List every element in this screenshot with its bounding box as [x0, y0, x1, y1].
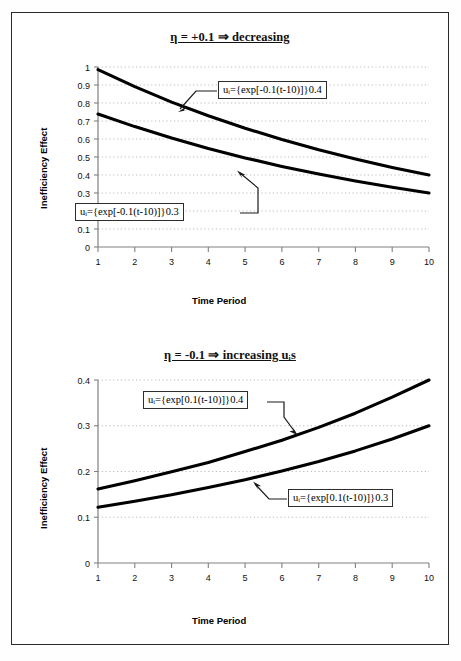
x-tick-label: 4: [206, 257, 211, 267]
x-tick-label: 6: [279, 257, 284, 267]
x-tick-label: 2: [132, 573, 137, 583]
x-tick-label: 3: [169, 573, 174, 583]
chart-panel-decreasing: η = +0.1 ⇒ decreasing Inefficiency Effec…: [12, 13, 448, 329]
y-tick-label: 0.3: [77, 189, 90, 199]
x-tick-label: 7: [316, 573, 321, 583]
x-tick-label: 1: [95, 573, 100, 583]
y-tick-label: 0.1: [77, 225, 90, 235]
annotation-lower-box: uᵢ={exp[0.1(t-10)]}0.3: [288, 489, 393, 507]
x-tick-label: 1: [95, 257, 100, 267]
curve-lower-decreasing: [98, 114, 429, 193]
annotation-upper-box: uᵢ={exp[0.1(t-10)]}0.4: [143, 391, 248, 409]
x-tick-label: 9: [390, 573, 395, 583]
y-tick-label: 0.8: [77, 99, 90, 109]
y-tick-label: 0.4: [77, 171, 90, 181]
arrow-head-lower: [253, 482, 261, 490]
x-tick-label: 8: [353, 257, 358, 267]
x-tick-label: 5: [243, 257, 248, 267]
annotation-lower-text: uᵢ={exp[-0.1(t-10)]}0.3: [80, 206, 179, 217]
x-tick-label: 10: [424, 573, 434, 583]
arrow-head-upper: [289, 427, 298, 436]
y-tick-label: 0: [85, 559, 90, 569]
y-tick-label: 0.2: [77, 467, 90, 477]
figure-page: η = +0.1 ⇒ decreasing Inefficiency Effec…: [0, 0, 461, 661]
figure-outer-border: η = +0.1 ⇒ decreasing Inefficiency Effec…: [11, 12, 449, 645]
plot-area-increasing: 0.4 0.3 0.2 0.1 0 1 2 3 4 5 6 7 8 9 10: [12, 329, 450, 646]
y-tick-label: 1: [85, 63, 90, 73]
annotation-upper-text: uᵢ={exp[-0.1(t-10)]}0.4: [223, 84, 322, 95]
annotation-lower-box: uᵢ={exp[-0.1(t-10)]}0.3: [75, 203, 184, 221]
x-tick-label: 9: [390, 257, 395, 267]
arrow-head-lower: [237, 171, 246, 179]
y-tick-label: 0.1: [77, 513, 90, 523]
y-tick-label: 0.5: [77, 153, 90, 163]
x-tick-label: 6: [279, 573, 284, 583]
x-tick-label: 5: [243, 573, 248, 583]
x-tick-label: 3: [169, 257, 174, 267]
y-tick-label: 0.3: [77, 421, 90, 431]
x-tick-label: 10: [424, 257, 434, 267]
y-tick-label: 0: [85, 243, 90, 253]
annotation-upper-text: uᵢ={exp[0.1(t-10)]}0.4: [148, 394, 243, 405]
y-tick-label: 0.6: [77, 135, 90, 145]
x-tick-label: 7: [316, 257, 321, 267]
x-tick-label: 2: [132, 257, 137, 267]
plot-area-decreasing: 1 0.9 0.8 0.7 0.6 0.5 0.4 0.3 0.2 0.1 0 …: [12, 13, 450, 329]
annotation-leader-lower: [255, 484, 287, 499]
y-tick-label: 0.7: [77, 117, 90, 127]
annotation-leader-upper: [267, 402, 295, 432]
x-tick-label: 4: [206, 573, 211, 583]
y-tick-label: 0.4: [77, 376, 90, 386]
annotation-lower-text: uᵢ={exp[0.1(t-10)]}0.3: [293, 492, 388, 503]
annotation-upper-box: uᵢ={exp[-0.1(t-10)]}0.4: [218, 81, 327, 99]
y-tick-label: 0.9: [77, 81, 90, 91]
chart-panel-increasing: η = -0.1 ⇒ increasing uᵢs Inefficiency E…: [12, 329, 448, 646]
x-tick-label: 8: [353, 573, 358, 583]
